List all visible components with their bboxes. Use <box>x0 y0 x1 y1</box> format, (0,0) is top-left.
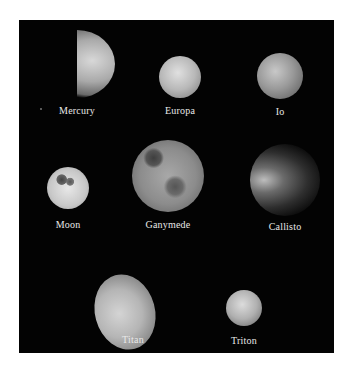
label-ganymede: Ganymede <box>146 219 191 230</box>
star-dot <box>40 108 42 110</box>
label-moon: Moon <box>56 219 81 230</box>
label-titan: Titan <box>122 334 144 345</box>
moon-image <box>47 167 89 209</box>
label-europa: Europa <box>165 105 195 116</box>
io-image <box>257 53 303 99</box>
label-callisto: Callisto <box>269 221 302 232</box>
ganymede-image <box>132 140 204 212</box>
label-triton: Triton <box>231 335 257 346</box>
label-io: Io <box>276 106 285 117</box>
figure-panel: Mercury Europa Io Moon Ganymede Callisto… <box>19 20 334 353</box>
mercury-image <box>39 30 115 98</box>
triton-image <box>226 290 262 326</box>
label-mercury: Mercury <box>59 105 95 116</box>
europa-image <box>159 56 201 98</box>
callisto-image <box>250 144 320 216</box>
